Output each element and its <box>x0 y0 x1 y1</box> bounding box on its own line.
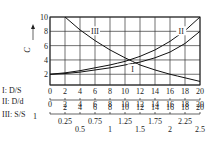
scale-3-tick-top: 18 <box>181 103 189 112</box>
scale-2-tick: 0 <box>48 100 52 109</box>
scale-1-label: I: D/S <box>2 86 21 95</box>
scale-3-tick-upper: 2.25 <box>178 117 192 126</box>
scale-3-tick-top: 20 <box>196 103 204 112</box>
scale-1-tick: 14 <box>151 87 159 96</box>
scale-1-tick: 0 <box>48 87 52 96</box>
scale-3-tick-lower: 1.5 <box>135 125 145 134</box>
scale-3-tick-top: 16 <box>166 103 174 112</box>
scale-3-tick-upper: 1.25 <box>118 117 132 126</box>
scale-3-tick-top: 14 <box>151 103 159 112</box>
scale-1-tick: 8 <box>108 87 112 96</box>
scale-1-tick: 6 <box>93 87 97 96</box>
scale-3-tick-top: 12 <box>136 103 144 112</box>
scale-1-tick: 18 <box>181 87 189 96</box>
scale-3-tick-lower: 1 <box>108 125 112 134</box>
scale-1-tick: 2 <box>63 87 67 96</box>
scale-3-tick-top: 8 <box>108 103 112 112</box>
scale-1-tick: 16 <box>166 87 174 96</box>
chart: 246810CIIIIIII: D/S02468101214161820II: … <box>0 0 211 149</box>
scale-3-label: III: S/S <box>2 110 25 119</box>
scale-3-sub: 1 <box>33 112 37 121</box>
scale-2-label: II: D/d <box>2 97 24 106</box>
scale-3-tick-upper: 1.75 <box>148 117 162 126</box>
y-tick-label: 4 <box>44 56 48 65</box>
scale-3-tick-top: 2 <box>63 103 67 112</box>
scale-3-tick-lower: 2.5 <box>195 125 205 134</box>
scale-3-tick-upper: 0.25 <box>58 117 72 126</box>
y-tick-label: 8 <box>44 27 48 36</box>
curve-label: II <box>179 27 185 36</box>
y-tick-label: 6 <box>44 42 48 51</box>
curve-label: III <box>91 27 99 36</box>
curve-label: I <box>131 65 134 74</box>
scale-3-tick-upper: 0.75 <box>88 117 102 126</box>
scale-3-tick-top: 10 <box>121 103 129 112</box>
y-axis-label: C <box>23 47 32 53</box>
scale-3-tick-lower: 0.5 <box>75 125 85 134</box>
arrow-head-icon <box>31 24 35 29</box>
scale-1-tick: 12 <box>136 87 144 96</box>
scale-1-tick: 20 <box>196 87 204 96</box>
scale-1-tick: 4 <box>78 87 82 96</box>
scale-3-tick-top: 4 <box>78 103 82 112</box>
scale-3-tick-lower: 2 <box>168 125 172 134</box>
scale-3-tick-top: 6 <box>93 103 97 112</box>
y-tick-label: 10 <box>40 13 48 22</box>
y-tick-label: 2 <box>44 70 48 79</box>
scale-1-tick: 10 <box>121 87 129 96</box>
